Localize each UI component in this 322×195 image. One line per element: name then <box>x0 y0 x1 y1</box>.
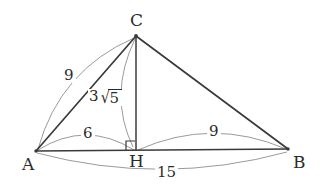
measure-label-ch: 3 √5 <box>88 89 123 106</box>
geometry-figure: A B C H 9 3 √5 6 9 15 <box>0 0 322 195</box>
measure-label-ac: 9 <box>62 68 76 83</box>
vertex-dot-a <box>34 149 37 152</box>
vertex-dot-c <box>134 34 138 38</box>
measure-label-ab: 15 <box>155 165 178 180</box>
arc-ch <box>121 39 135 147</box>
triangle-edges <box>36 36 288 151</box>
segment-ab <box>36 149 288 151</box>
radical-sign-glyph: √ <box>100 89 109 106</box>
vertex-dots <box>34 34 289 153</box>
vertex-dot-b <box>286 147 289 150</box>
radical-icon: √5 <box>100 89 122 106</box>
measure-ch-radicand: 5 <box>108 89 122 106</box>
measure-label-ah: 6 <box>81 126 95 141</box>
vertex-label-h: H <box>129 153 144 170</box>
vertex-label-b: B <box>293 154 306 171</box>
measure-label-hb: 9 <box>207 124 221 139</box>
vertex-label-a: A <box>22 156 34 173</box>
vertex-label-c: C <box>130 12 143 29</box>
measure-ch-coefficient: 3 <box>89 89 99 104</box>
